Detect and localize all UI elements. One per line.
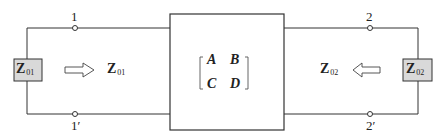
z01-label: Z01 <box>107 61 125 77</box>
z-symbol: Z <box>320 61 329 76</box>
z02-box-label: Z02 <box>406 61 424 77</box>
terminal-2-label: 2 <box>366 9 373 25</box>
terminal-1-prime-label: 1′ <box>71 118 80 134</box>
z01-box-label: Z01 <box>16 61 34 77</box>
terminal-2-prime-label: 2′ <box>366 118 375 134</box>
matrix-a: A <box>207 52 216 68</box>
z-subscript: 02 <box>330 68 338 77</box>
z-subscript: 01 <box>26 68 34 77</box>
terminal-1-label: 1 <box>71 9 78 25</box>
right-wires <box>284 28 418 114</box>
matrix-b: B <box>230 52 239 68</box>
matrix-c: C <box>207 76 216 92</box>
terminal-1 <box>73 26 78 31</box>
z-symbol: Z <box>107 61 116 76</box>
arrow-left-icon <box>353 63 380 77</box>
z02-label: Z02 <box>320 61 338 77</box>
arrow-right-icon <box>65 63 94 77</box>
terminal-2-prime <box>368 112 373 117</box>
terminal-2 <box>368 26 373 31</box>
circuit-diagram <box>0 0 444 140</box>
z-subscript: 02 <box>416 68 424 77</box>
z-symbol: Z <box>16 61 25 76</box>
terminal-1-prime <box>73 112 78 117</box>
left-wires <box>27 28 170 114</box>
matrix-d: D <box>230 76 240 92</box>
z-subscript: 01 <box>117 68 125 77</box>
network-box <box>170 14 284 130</box>
z-symbol: Z <box>406 61 415 76</box>
